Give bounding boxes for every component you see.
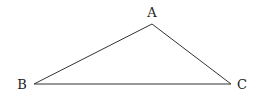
triangle-diagram: A B C [0, 0, 261, 100]
vertex-label-c: C [237, 77, 247, 92]
vertex-label-a: A [146, 5, 157, 20]
edge-ab [34, 24, 152, 84]
vertex-label-b: B [17, 77, 27, 92]
edge-ca [152, 24, 231, 84]
